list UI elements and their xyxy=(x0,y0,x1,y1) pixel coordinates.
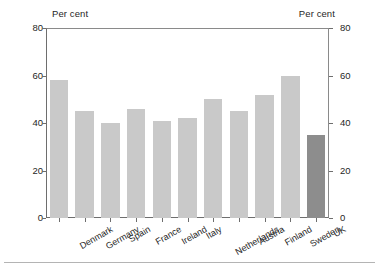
bar-france xyxy=(127,109,146,218)
y-tick-mark-right-80 xyxy=(329,28,333,29)
footer-divider xyxy=(4,262,375,263)
y-tick-label-left-60: 60 xyxy=(17,71,43,81)
x-tick-mark-netherlands xyxy=(213,218,214,222)
x-tick-mark-ireland xyxy=(162,218,163,222)
x-tick-mark-france xyxy=(136,218,137,222)
y-tick-label-left-0: 0 xyxy=(17,213,43,223)
bar-spain xyxy=(101,123,120,218)
x-tick-mark-germany xyxy=(85,218,86,222)
x-tick-mark-italy xyxy=(188,218,189,222)
bar-austria xyxy=(230,111,249,218)
x-tick-mark-spain xyxy=(110,218,111,222)
bar-finland xyxy=(255,95,274,219)
y-tick-label-right-60: 60 xyxy=(340,71,366,81)
y-tick-label-right-40: 40 xyxy=(340,118,366,128)
bar-chart-figure: Per cent Per cent 808060604040202000 Den… xyxy=(0,0,379,273)
y-tick-mark-right-40 xyxy=(329,123,333,124)
bar-series xyxy=(46,28,329,218)
bar-italy xyxy=(178,118,197,218)
x-axis-label-finland: Finland xyxy=(283,224,314,247)
y-tick-mark-left-0 xyxy=(42,218,46,219)
y-tick-mark-right-60 xyxy=(329,76,333,77)
bar-denmark xyxy=(50,80,69,218)
y-tick-label-left-40: 40 xyxy=(17,118,43,128)
x-tick-mark-finland xyxy=(265,218,266,222)
x-tick-mark-denmark xyxy=(59,218,60,222)
y-tick-label-left-20: 20 xyxy=(17,166,43,176)
x-tick-mark-sweden xyxy=(290,218,291,222)
y-tick-label-right-20: 20 xyxy=(340,166,366,176)
x-axis-label-ireland: Ireland xyxy=(179,224,208,246)
bar-ireland xyxy=(153,121,172,218)
y-tick-mark-right-0 xyxy=(329,218,333,219)
x-tick-mark-uk xyxy=(316,218,317,222)
x-tick-mark-austria xyxy=(239,218,240,222)
y-axis-units-right: Per cent xyxy=(299,8,335,19)
bar-netherlands xyxy=(204,99,223,218)
bar-germany xyxy=(75,111,94,218)
y-axis-units-left: Per cent xyxy=(52,8,88,19)
y-tick-label-right-80: 80 xyxy=(340,23,366,33)
x-axis-label-france: France xyxy=(154,224,183,247)
x-axis-label-italy: Italy xyxy=(204,224,223,241)
y-tick-label-left-80: 80 xyxy=(17,23,43,33)
bar-uk xyxy=(307,135,326,218)
y-tick-label-right-0: 0 xyxy=(340,213,366,223)
bar-sweden xyxy=(281,76,300,219)
y-tick-mark-right-20 xyxy=(329,171,333,172)
